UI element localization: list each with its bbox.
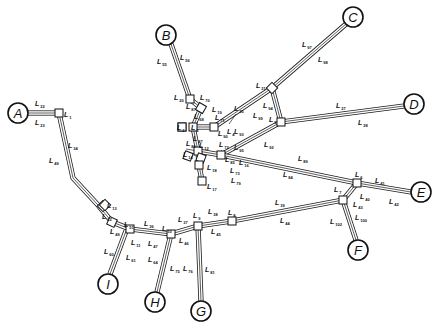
link-label: L1 [64, 111, 72, 120]
junction-n18 [195, 161, 203, 169]
terminal-label: B [162, 28, 171, 43]
junction-n6 [353, 179, 361, 187]
link-7-8 [232, 200, 343, 221]
link-21-5 [272, 88, 281, 122]
junction-n1 [55, 109, 63, 117]
terminal-label: E [417, 185, 426, 200]
link-label: L40 [360, 193, 371, 202]
link-B-20 [171, 44, 190, 99]
link-label: L64 [148, 256, 159, 265]
link-label: L13 [107, 202, 118, 211]
link-label: L37 [178, 216, 189, 225]
junction-n17 [198, 177, 206, 185]
terminal-label: H [150, 295, 160, 310]
link-label: L27 [336, 102, 347, 111]
link-label: L21 [256, 82, 267, 91]
link-label: L9 [193, 212, 201, 221]
link-label: L98 [318, 56, 329, 65]
link-label: L39 [275, 199, 286, 208]
terminal-G: G [191, 301, 211, 321]
network-diagram: ABCDEFGHI L22L23L1L34L49L55L56L20L70L87L… [0, 0, 441, 328]
terminal-E: E [411, 182, 431, 202]
link-label: L45 [211, 228, 222, 237]
link-label: L42 [389, 198, 400, 207]
link-label: L7 [334, 186, 342, 195]
link-label: L36 [144, 220, 155, 229]
link-label: L99 [253, 112, 264, 121]
link-label: L97 [302, 41, 313, 50]
link-label: L79 [231, 177, 242, 186]
link-label: L84 [283, 171, 294, 180]
terminal-C: C [343, 7, 363, 27]
link-label: L22 [35, 100, 46, 109]
link-label: L56 [180, 54, 191, 63]
terminal-label: F [354, 243, 363, 258]
link-label: L75 [170, 265, 181, 274]
link-8-9 [198, 221, 232, 226]
link-label: L47 [148, 240, 159, 249]
link-label: L60 [104, 248, 115, 257]
terminal-label: G [196, 304, 206, 319]
terminal-D: D [404, 94, 424, 114]
link-label: L38 [208, 208, 219, 217]
terminal-B: B [156, 25, 176, 45]
link-label: L72 [219, 141, 230, 150]
link-label: L70 [200, 94, 211, 103]
junction-n4 [210, 123, 218, 131]
link-label: L92 [264, 141, 275, 150]
terminal-label: A [13, 106, 23, 121]
link-label: L102 [330, 218, 343, 227]
link-label: L61 [126, 254, 137, 263]
link-5-16 [221, 122, 281, 155]
terminal-A: A [8, 103, 28, 123]
junction-n20 [186, 95, 194, 103]
terminal-H: H [145, 292, 165, 312]
terminal-I: I [98, 274, 118, 294]
link-label: L11 [131, 239, 141, 248]
link-label: L17 [207, 183, 218, 192]
link-label: L28 [358, 119, 369, 128]
terminal-F: F [348, 240, 368, 260]
link-label: L76 [183, 265, 194, 274]
link-label: L81 [205, 266, 216, 275]
link-label: L44 [280, 217, 291, 226]
junction-n5 [277, 118, 285, 126]
link-10-H [157, 234, 171, 292]
link-label: L93 [234, 128, 245, 137]
terminal-label: C [348, 10, 358, 25]
link-label: L89 [298, 155, 309, 164]
link-label: L46 [179, 237, 190, 246]
junction-n10b [194, 222, 202, 230]
junction-n7 [339, 196, 347, 204]
link-C-21 [272, 24, 346, 88]
link-label: L49 [110, 228, 121, 237]
junction-n8 [228, 217, 236, 225]
link-label: L18 [207, 164, 218, 173]
link-9-G [198, 226, 201, 301]
link-label: L20 [174, 94, 185, 103]
link-label: L34 [68, 142, 79, 151]
link-label: L71 [215, 114, 226, 123]
terminal-label: I [106, 277, 110, 292]
link-label: L55 [157, 58, 168, 67]
link-label: L94 [263, 102, 274, 111]
junction-n16 [217, 151, 225, 159]
link-label: L73 [230, 167, 241, 176]
link-label: L43 [353, 201, 364, 210]
link-label: L49 [49, 157, 60, 166]
terminal-label: D [409, 97, 418, 112]
link-label: L23 [35, 119, 46, 128]
link-label: L100 [355, 214, 368, 223]
